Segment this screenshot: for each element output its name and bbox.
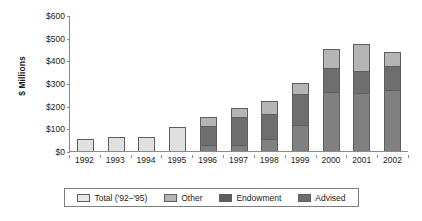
x-axis-tick-mark — [408, 155, 409, 158]
legend-swatch-icon — [77, 194, 90, 202]
bar-group — [70, 16, 408, 151]
bar-segment — [200, 145, 217, 151]
bar-slot — [193, 16, 224, 151]
bar-slot — [285, 16, 316, 151]
bar-slot — [131, 16, 162, 151]
x-axis-tick-label: 1999 — [285, 155, 316, 169]
y-axis-title-text: $ Millions — [17, 56, 27, 96]
bar-slot — [101, 16, 132, 151]
chart-legend: Total ('92–'95)OtherEndowmentAdvised — [64, 188, 359, 207]
bar-slot — [316, 16, 347, 151]
x-axis-ticks: 1992199319941995199619971998199920002001… — [69, 155, 408, 169]
bar-stack[interactable] — [108, 137, 125, 151]
x-axis-tick-label: 1996 — [192, 155, 223, 169]
x-axis-tick-label: 2001 — [346, 155, 377, 169]
bar-segment — [292, 125, 309, 151]
x-axis-tick-mark — [69, 155, 70, 158]
x-axis-tick-mark — [254, 155, 255, 158]
legend-item[interactable]: Advised — [298, 193, 345, 203]
x-axis-tick-label: 1995 — [161, 155, 192, 169]
x-axis-tick-mark — [346, 155, 347, 158]
y-axis-tick-mark — [67, 152, 70, 153]
x-axis-tick-mark — [161, 155, 162, 158]
bar-segment — [77, 139, 94, 151]
bar-segment — [353, 44, 370, 70]
bar-segment — [108, 137, 125, 151]
bar-segment — [353, 93, 370, 151]
x-axis-tick-mark — [285, 155, 286, 158]
bar-stack[interactable] — [138, 137, 155, 151]
legend-item[interactable]: Other — [164, 193, 202, 203]
bar-segment — [384, 66, 401, 90]
bar-stack[interactable] — [231, 108, 248, 151]
bar-slot — [162, 16, 193, 151]
x-axis-tick-label: 2002 — [377, 155, 408, 169]
x-axis-tick-label: 1997 — [223, 155, 254, 169]
bar-segment — [323, 49, 340, 68]
x-axis-tick-label: 1992 — [69, 155, 100, 169]
bar-segment — [200, 117, 217, 126]
legend-swatch-icon — [298, 194, 311, 202]
bar-segment — [169, 127, 186, 151]
bar-segment — [231, 145, 248, 151]
x-axis-tick-label: 1993 — [100, 155, 131, 169]
bar-segment — [353, 71, 370, 94]
bar-stack[interactable] — [77, 139, 94, 151]
bar-segment — [200, 126, 217, 145]
plot-area: $600$500$400$300$200$100$0 — [69, 16, 408, 152]
x-axis-tick-mark — [100, 155, 101, 158]
bar-slot — [254, 16, 285, 151]
bar-stack[interactable] — [169, 127, 186, 151]
bar-segment — [384, 52, 401, 66]
bar-segment — [261, 114, 278, 139]
x-axis-tick-label: 2000 — [316, 155, 347, 169]
y-axis-title: $ Millions — [14, 0, 30, 152]
bar-segment — [292, 83, 309, 94]
bar-stack[interactable] — [200, 117, 217, 151]
bar-stack[interactable] — [353, 44, 370, 151]
legend-item-label: Endowment — [236, 193, 281, 203]
bar-stack[interactable] — [323, 49, 340, 151]
bar-stack[interactable] — [261, 101, 278, 151]
bar-segment — [231, 117, 248, 145]
x-axis-tick-mark — [131, 155, 132, 158]
legend-swatch-icon — [164, 194, 177, 202]
x-axis-tick-mark — [377, 155, 378, 158]
bar-segment — [138, 137, 155, 151]
bar-slot — [347, 16, 378, 151]
legend-item-label: Total ('92–'95) — [94, 193, 147, 203]
legend-item-label: Other — [181, 193, 202, 203]
x-axis-tick-mark — [316, 155, 317, 158]
bar-slot — [70, 16, 101, 151]
legend-item[interactable]: Total ('92–'95) — [77, 193, 147, 203]
bar-segment — [384, 90, 401, 151]
bar-segment — [292, 94, 309, 125]
bar-segment — [261, 101, 278, 113]
x-axis-tick-mark — [223, 155, 224, 158]
bar-stack[interactable] — [384, 52, 401, 151]
legend-item-label: Advised — [315, 193, 345, 203]
x-axis-tick-mark — [192, 155, 193, 158]
bar-segment — [231, 108, 248, 117]
chart-figure: $ Millions $600$500$400$300$200$100$0 19… — [0, 0, 422, 221]
bar-segment — [261, 139, 278, 151]
bar-segment — [323, 68, 340, 92]
bar-slot — [224, 16, 255, 151]
bar-segment — [323, 92, 340, 151]
legend-swatch-icon — [219, 194, 232, 202]
x-axis-tick-label: 1998 — [254, 155, 285, 169]
bar-slot — [377, 16, 408, 151]
x-axis-tick-label: 1994 — [131, 155, 162, 169]
bar-stack[interactable] — [292, 83, 309, 151]
legend-item[interactable]: Endowment — [219, 193, 281, 203]
